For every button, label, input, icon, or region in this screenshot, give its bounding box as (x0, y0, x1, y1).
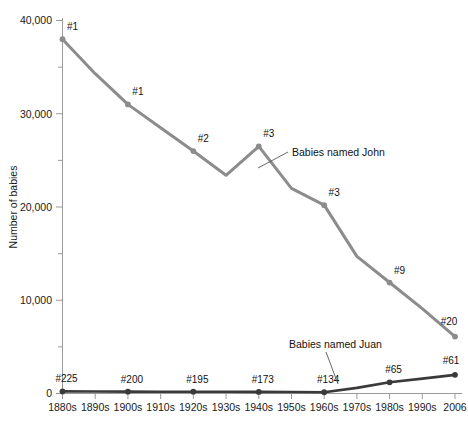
x-tick-label: 2006 (443, 401, 467, 413)
footer-caption (8, 421, 338, 428)
series-john: #1#1#2#3#3#9#20 (60, 21, 458, 339)
annotation-john: Babies named John (258, 146, 385, 168)
annotation-label-john: Babies named John (292, 146, 385, 158)
y-tick-label: 0 (46, 387, 52, 399)
x-tick-label: 1980s (375, 401, 404, 413)
series-marker (60, 36, 66, 42)
x-tick-label: 1950s (277, 401, 306, 413)
x-tick-label: 1920s (179, 401, 208, 413)
point-label: #173 (252, 374, 275, 385)
annotation-label-juan: Babies named Juan (289, 338, 382, 350)
annotation-juan: Babies named Juan (289, 338, 382, 384)
series-marker (60, 389, 66, 395)
series-marker (321, 202, 327, 208)
x-tick-label: 1890s (81, 401, 110, 413)
y-tick-label: 30,000 (20, 108, 52, 120)
series-marker (387, 379, 393, 385)
series-marker (190, 148, 196, 154)
x-axis: 1880s1890s1900s1910s1920s1930s1940s1950s… (48, 394, 467, 414)
y-axis-title: Number of babies (7, 166, 19, 249)
series-line (63, 39, 456, 336)
point-label: #9 (394, 265, 406, 276)
x-tick-label: 1910s (146, 401, 175, 413)
point-label: #2 (198, 133, 210, 144)
point-label: #1 (132, 86, 144, 97)
series-marker (387, 280, 393, 286)
point-label: #3 (263, 128, 275, 139)
y-tick-label: 40,000 (20, 14, 52, 26)
series-marker (190, 389, 196, 395)
series-marker (256, 389, 262, 395)
x-tick-label: 1900s (114, 401, 143, 413)
x-axis-tick-labels: 1880s1890s1900s1910s1920s1930s1940s1950s… (48, 401, 467, 413)
x-tick-label: 1990s (408, 401, 437, 413)
x-tick-label: 1880s (48, 401, 77, 413)
series-marker (256, 143, 262, 149)
y-axis-tick-labels: 010,00020,00030,00040,000 (20, 14, 52, 399)
x-tick-label: 1940s (244, 401, 273, 413)
y-tick-label: 10,000 (20, 294, 52, 306)
point-label: #3 (329, 187, 341, 198)
y-axis: 010,00020,00030,00040,000 Number of babi… (7, 14, 63, 399)
y-axis-ticks (56, 21, 63, 394)
point-label: #65 (385, 364, 402, 375)
chart-container: 010,00020,00030,00040,000 Number of babi… (0, 0, 468, 430)
babies-named-john-juan-line-chart: 010,00020,00030,00040,000 Number of babi… (0, 0, 468, 430)
point-label: #195 (186, 374, 209, 385)
point-label: #61 (443, 355, 460, 366)
y-tick-label: 20,000 (20, 201, 52, 213)
point-label: #200 (121, 374, 144, 385)
series-layer: #1#1#2#3#3#9#20#225#200#195#173#134#65#6… (55, 21, 459, 395)
series-marker (125, 389, 131, 395)
x-tick-label: 1960s (310, 401, 339, 413)
series-marker (452, 372, 458, 378)
series-juan: #225#200#195#173#134#65#61 (55, 355, 459, 395)
x-tick-label: 1930s (212, 401, 241, 413)
series-marker (452, 334, 458, 340)
series-marker (321, 389, 327, 395)
point-label: #20 (441, 316, 458, 327)
x-tick-label: 1970s (343, 401, 372, 413)
series-marker (125, 102, 131, 108)
point-label: #225 (55, 373, 78, 384)
point-label: #1 (67, 21, 79, 32)
